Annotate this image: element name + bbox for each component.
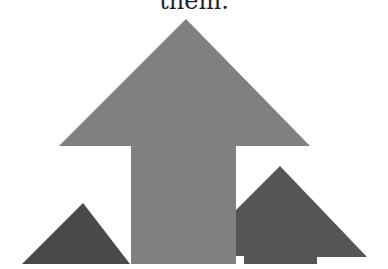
small-left-triangle-icon: [22, 203, 130, 264]
right-up-arrow-icon: [236, 166, 367, 264]
arrow-figure: [0, 0, 388, 269]
